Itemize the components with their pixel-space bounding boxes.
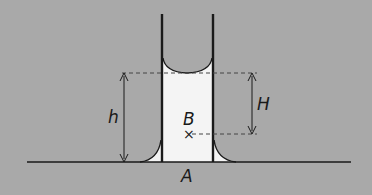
diagram-canvas: h H B A × — [0, 0, 372, 195]
capillary-diagram: h H B A × — [0, 0, 372, 195]
label-h: h — [108, 107, 119, 127]
label-A: A — [180, 166, 193, 186]
point-b-marker: × — [183, 126, 195, 142]
label-H: H — [257, 94, 270, 114]
